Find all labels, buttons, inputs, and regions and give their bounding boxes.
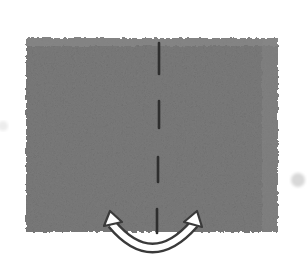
origami-diagram: [0, 0, 307, 280]
registration-dot: [291, 173, 305, 187]
smudge-mark: [0, 121, 8, 131]
paper-square: [26, 38, 278, 232]
